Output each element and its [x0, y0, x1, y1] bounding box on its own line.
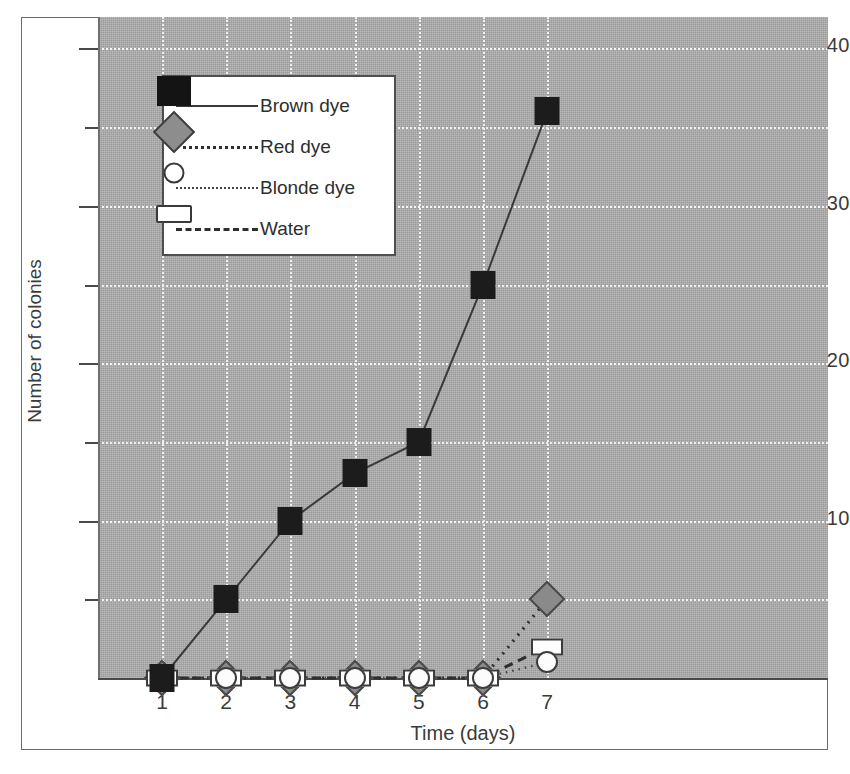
- legend-sample-brown-dye: [174, 91, 260, 121]
- marker-blonde-dye-day-7: [536, 651, 558, 673]
- marker-brown-dye-day-2: [214, 585, 239, 613]
- chart-legend: Brown dyeRed dyeBlonde dyeWater: [162, 75, 396, 256]
- legend-label-red-dye: Red dye: [260, 136, 331, 158]
- legend-sample-blonde-dye: [174, 173, 260, 203]
- legend-marker-blonde-dye-icon: [164, 162, 185, 183]
- legend-line-water: [176, 228, 258, 231]
- legend-label-brown-dye: Brown dye: [260, 95, 350, 117]
- marker-brown-dye-day-3: [278, 507, 303, 535]
- marker-brown-dye-day-4: [342, 459, 367, 487]
- chart-figure: 10203040 1234567 Time (days) Number of c…: [0, 0, 850, 774]
- marker-brown-dye-day-6: [471, 271, 496, 299]
- legend-item-water: Water: [164, 208, 394, 249]
- series-markers: [0, 0, 850, 774]
- marker-blonde-dye-day-6: [472, 667, 494, 689]
- legend-item-brown-dye: Brown dye: [164, 85, 394, 126]
- legend-label-water: Water: [260, 218, 310, 240]
- marker-blonde-dye-day-4: [344, 667, 366, 689]
- marker-red-dye-day-7: [529, 581, 566, 618]
- legend-item-blonde-dye: Blonde dye: [164, 167, 394, 208]
- marker-blonde-dye-day-2: [215, 667, 237, 689]
- marker-blonde-dye-day-3: [279, 667, 301, 689]
- legend-marker-brown-dye-icon: [157, 76, 191, 106]
- marker-brown-dye-day-5: [406, 428, 431, 456]
- marker-blonde-dye-day-5: [408, 667, 430, 689]
- marker-brown-dye-day-7: [535, 97, 560, 125]
- marker-brown-dye-day-1: [150, 664, 175, 692]
- legend-item-red-dye: Red dye: [164, 126, 394, 167]
- legend-line-red-dye: [176, 146, 258, 149]
- legend-line-blonde-dye: [176, 187, 258, 189]
- legend-sample-red-dye: [174, 132, 260, 162]
- legend-label-blonde-dye: Blonde dye: [260, 177, 355, 199]
- legend-sample-water: [174, 214, 260, 244]
- legend-marker-water-icon: [156, 205, 192, 223]
